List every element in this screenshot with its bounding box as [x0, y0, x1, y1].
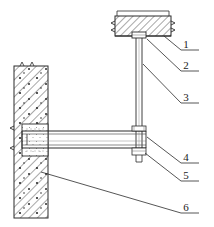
callout-label-6: 6	[179, 202, 193, 213]
callout-label-1: 1	[179, 39, 193, 50]
callout-label-2: 2	[179, 60, 193, 71]
callout-label-3: 3	[179, 92, 193, 103]
callout-label-4: 4	[179, 152, 193, 163]
anchor-plate	[132, 32, 146, 38]
callout-label-5: 5	[179, 170, 193, 181]
drawing-canvas: 1 2 3 4 5 6	[0, 0, 214, 227]
leader-lines	[41, 36, 199, 213]
technical-drawing	[0, 0, 214, 227]
leader-6	[41, 172, 199, 213]
horizontal-steel-beam	[22, 131, 146, 148]
